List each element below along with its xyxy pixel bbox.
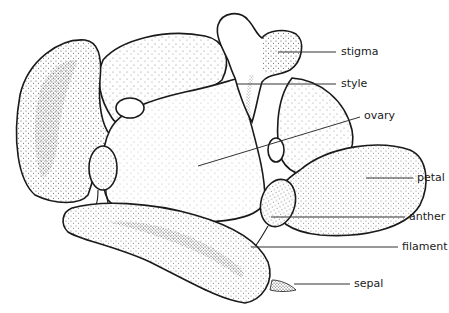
flower-illustration bbox=[0, 0, 449, 313]
sepal bbox=[270, 280, 296, 292]
label-petal: petal bbox=[417, 172, 445, 184]
label-sepal: sepal bbox=[354, 278, 383, 290]
label-stigma: stigma bbox=[341, 46, 379, 58]
label-ovary: ovary bbox=[364, 110, 395, 122]
flower-diagram: stigma style ovary petal anther filament… bbox=[0, 0, 449, 313]
label-anther: anther bbox=[409, 211, 445, 223]
label-filament: filament bbox=[402, 241, 448, 253]
label-style: style bbox=[341, 78, 367, 90]
